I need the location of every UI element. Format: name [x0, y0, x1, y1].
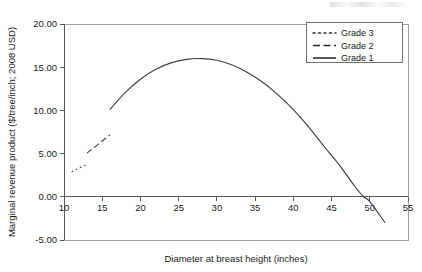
x-tick-label: 20: [135, 202, 146, 213]
y-tick-label: -5.00: [35, 234, 57, 245]
x-tick-label: 35: [250, 202, 261, 213]
series-line-grade-1: [110, 59, 385, 223]
x-tick-label: 25: [173, 202, 184, 213]
x-tick-label: 45: [326, 202, 337, 213]
y-axis-title: Marginal revenue product ($/tree/inch; 2…: [6, 27, 17, 237]
x-tick-label: 15: [97, 202, 108, 213]
legend-label-grade-2: Grade 2: [341, 41, 374, 51]
legend-label-grade-1: Grade 1: [341, 53, 374, 63]
x-tick-label: 55: [403, 202, 414, 213]
legend-label-grade-3: Grade 3: [341, 28, 374, 38]
x-tick-label: 40: [288, 202, 299, 213]
marginal-revenue-product-chart: -5.000.005.0010.0015.0020.00101520253035…: [0, 0, 422, 272]
y-tick-label: 10.00: [33, 105, 57, 116]
chart-figure: -5.000.005.0010.0015.0020.00101520253035…: [0, 0, 422, 272]
series-line-grade-2: [87, 135, 110, 153]
x-axis-title: Diameter at breast height (inches): [164, 253, 307, 264]
y-tick-label: 0.00: [39, 191, 58, 202]
x-tick-label: 10: [59, 202, 70, 213]
x-tick-label: 30: [212, 202, 223, 213]
y-tick-label: 15.00: [33, 62, 57, 73]
y-tick-label: 5.00: [39, 148, 58, 159]
y-tick-label: 20.00: [33, 18, 57, 29]
series-line-grade-3: [72, 165, 87, 172]
